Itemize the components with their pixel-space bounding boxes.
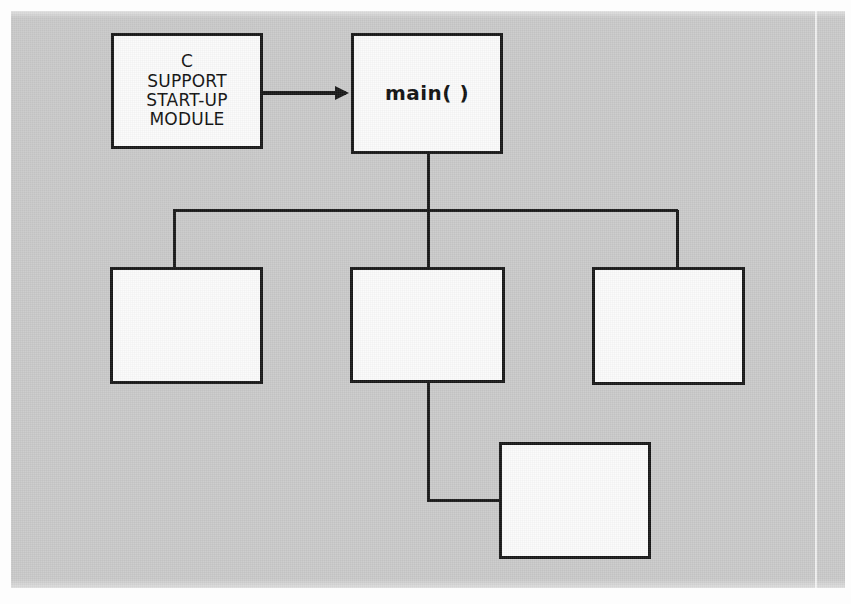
node-grandchild[interactable]: [499, 442, 651, 559]
node-startup-module-label: C SUPPORT START-UP MODULE: [142, 52, 231, 130]
figure-root: C SUPPORT START-UP MODULE main( ): [0, 0, 851, 604]
arrowhead-icon: [335, 86, 349, 100]
node-child-middle[interactable]: [350, 267, 505, 383]
connector-startup-to-main: [263, 86, 349, 100]
node-child-right[interactable]: [592, 267, 745, 385]
connector-main-to-children-bus: [173, 154, 678, 267]
diagram-panel: C SUPPORT START-UP MODULE main( ): [11, 11, 845, 588]
node-main[interactable]: main( ): [351, 33, 503, 154]
node-child-left[interactable]: [110, 267, 263, 384]
node-startup-module[interactable]: C SUPPORT START-UP MODULE: [111, 33, 263, 149]
node-main-label: main( ): [381, 82, 473, 105]
connector-middle-to-grandchild: [427, 383, 502, 501]
